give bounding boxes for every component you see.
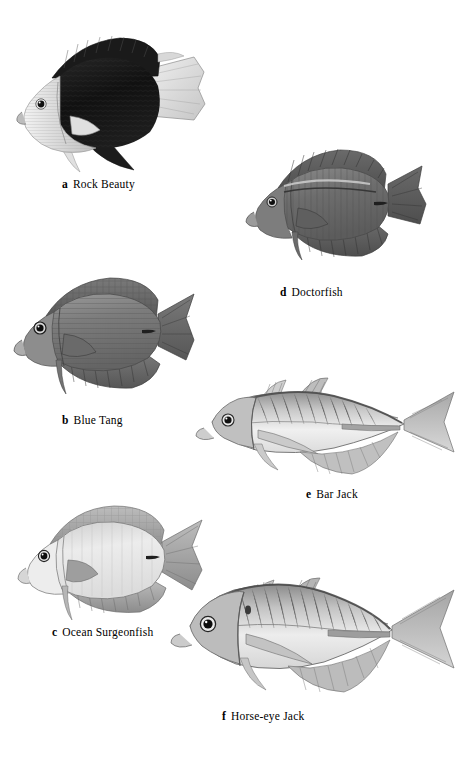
horse-eye-jack-drawing xyxy=(168,572,466,700)
opercular-spot xyxy=(245,606,251,615)
doctorfish-drawing xyxy=(236,140,436,262)
figure-name-e: Bar Jack xyxy=(316,488,358,500)
caudal-fin xyxy=(392,590,454,668)
caudal-fin xyxy=(158,294,194,360)
mouth xyxy=(196,428,214,440)
eye-pupil xyxy=(224,416,231,423)
caption-horse-eye-jack: fHorse-eye Jack xyxy=(222,710,304,722)
eye-pupil xyxy=(269,199,275,205)
eye-highlight xyxy=(205,621,207,623)
eye-highlight xyxy=(38,325,40,327)
caudal-fin xyxy=(404,392,454,452)
bar-jack-drawing xyxy=(192,374,466,478)
mouth xyxy=(171,634,192,647)
eye-highlight xyxy=(225,417,227,419)
figure-name-d: Doctorfish xyxy=(292,286,343,298)
figure-horse-eye-jack xyxy=(168,572,466,700)
eye-pupil xyxy=(38,101,45,108)
figure-letter-b: b xyxy=(62,414,69,426)
figure-blue-tang xyxy=(10,266,200,402)
figure-name-b: Blue Tang xyxy=(74,414,123,426)
figure-letter-c: c xyxy=(52,626,57,638)
figure-letter-d: d xyxy=(280,286,287,298)
caption-ocean-surgeonfish: cOcean Surgeonfish xyxy=(52,626,153,638)
eye-highlight xyxy=(39,101,41,103)
figure-doctorfish xyxy=(236,140,436,262)
caption-blue-tang: bBlue Tang xyxy=(62,414,123,426)
eye-pupil xyxy=(41,553,48,560)
figure-name-a: Rock Beauty xyxy=(73,178,135,190)
illustration-plate: aRock Beauty xyxy=(0,0,468,762)
figure-name-c: Ocean Surgeonfish xyxy=(62,626,153,638)
figure-bar-jack xyxy=(192,374,466,478)
figure-letter-f: f xyxy=(222,710,226,722)
figure-letter-e: e xyxy=(306,488,311,500)
figure-letter-a: a xyxy=(62,178,68,190)
head xyxy=(190,592,244,665)
blue-tang-drawing xyxy=(10,266,200,402)
rock-beauty-drawing xyxy=(8,24,208,174)
figure-rock-beauty xyxy=(8,24,208,174)
figure-name-f: Horse-eye Jack xyxy=(231,710,304,722)
eye-highlight xyxy=(42,554,44,556)
caudal-fin xyxy=(388,166,426,224)
eye-pupil xyxy=(36,324,43,331)
caption-bar-jack: eBar Jack xyxy=(306,488,358,500)
caption-rock-beauty: aRock Beauty xyxy=(62,178,135,190)
eye-pupil xyxy=(203,619,212,628)
eye-highlight xyxy=(270,200,272,202)
caption-doctorfish: dDoctorfish xyxy=(280,286,343,298)
